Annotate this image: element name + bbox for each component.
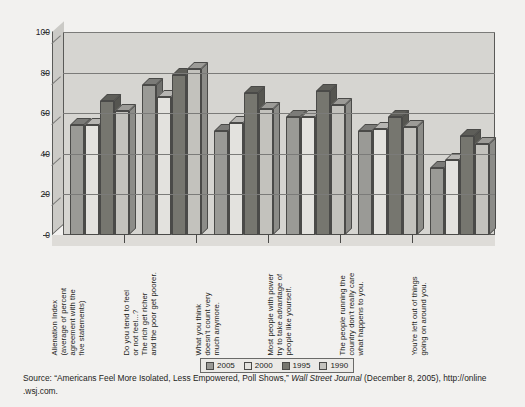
legend-swatch bbox=[244, 362, 252, 370]
legend-label: 2005 bbox=[217, 362, 235, 370]
bar bbox=[157, 97, 171, 235]
chart-page: 020406080100 Alienation Index(average of… bbox=[0, 0, 525, 407]
category-label-group: The people running thecountry don't real… bbox=[347, 248, 406, 356]
x-axis-separator bbox=[340, 234, 341, 243]
gridline bbox=[63, 32, 495, 33]
bar bbox=[214, 131, 228, 235]
bar bbox=[100, 101, 114, 235]
bar bbox=[475, 144, 489, 235]
bar bbox=[115, 111, 129, 235]
x-axis-separator bbox=[124, 234, 125, 243]
category-label-group: Alienation Index(average of percentagree… bbox=[59, 248, 118, 356]
bar-front-face bbox=[373, 129, 387, 235]
category-label-line: The rich get richer bbox=[141, 293, 149, 356]
category-label-line: going on around you. bbox=[420, 283, 428, 356]
bar-front-face bbox=[142, 85, 156, 235]
source-publication: Wall Street Journal bbox=[291, 373, 362, 383]
legend-label: 1995 bbox=[293, 362, 311, 370]
legend-swatch bbox=[206, 362, 214, 370]
category-label-line: Most people with power bbox=[267, 274, 275, 356]
bar bbox=[388, 117, 402, 235]
category-label-line: (average of percent bbox=[60, 288, 68, 356]
bar-front-face bbox=[85, 125, 99, 235]
bar-side-face bbox=[273, 102, 280, 235]
gridline bbox=[63, 154, 495, 155]
bar bbox=[445, 160, 459, 235]
x-axis-separator bbox=[268, 234, 269, 243]
bar-front-face bbox=[100, 101, 114, 235]
bar bbox=[358, 131, 372, 235]
y-axis-tick-mark bbox=[43, 194, 49, 195]
bar-front-face bbox=[388, 117, 402, 235]
category-label-line: You're left out of things bbox=[411, 277, 419, 356]
bar-front-face bbox=[172, 75, 186, 235]
y-axis-tick-mark bbox=[43, 235, 49, 236]
bar bbox=[229, 123, 243, 235]
bar-front-face bbox=[244, 93, 258, 235]
gridline bbox=[63, 73, 495, 74]
category-label-line: What you think bbox=[195, 304, 203, 356]
bar bbox=[70, 125, 84, 235]
bar-front-face bbox=[157, 97, 171, 235]
category-label-line: doesn't count very bbox=[204, 293, 212, 356]
gridline bbox=[63, 113, 495, 114]
legend-item: 1990 bbox=[319, 362, 348, 370]
bar bbox=[373, 129, 387, 235]
x-axis-category-labels: Alienation Index(average of percentagree… bbox=[52, 248, 495, 356]
y-axis-tick-mark bbox=[43, 73, 49, 74]
bar-front-face bbox=[430, 168, 444, 235]
y-axis: 020406080100 bbox=[14, 10, 50, 250]
category-label-group: Do you tend to feelor not feel...?The ri… bbox=[131, 248, 190, 356]
bar-series-container bbox=[52, 32, 495, 246]
chart-legend: 2005200019951990 bbox=[200, 358, 354, 373]
legend-item: 1995 bbox=[282, 362, 311, 370]
bar bbox=[301, 117, 315, 235]
bar-front-face bbox=[286, 117, 300, 235]
bar-front-face bbox=[301, 117, 315, 235]
bar bbox=[172, 75, 186, 235]
bar bbox=[460, 136, 474, 235]
bar bbox=[244, 93, 258, 235]
category-label-line: Alienation Index bbox=[51, 300, 59, 356]
category-label-line: Do you tend to feel bbox=[123, 290, 131, 356]
legend-item: 2000 bbox=[244, 362, 273, 370]
bar bbox=[331, 105, 345, 235]
category-label-line: much anymore. bbox=[213, 302, 221, 356]
category-label-line: try to take advantage of bbox=[276, 274, 284, 356]
bar-front-face bbox=[331, 105, 345, 235]
category-label-line: what happens to you. bbox=[357, 282, 365, 356]
bar-side-face bbox=[201, 62, 208, 235]
category-label-line: The people running the bbox=[339, 276, 347, 356]
bar-front-face bbox=[259, 109, 273, 235]
chart-figure: 020406080100 Alienation Index(average of… bbox=[14, 10, 511, 358]
bar-side-face bbox=[417, 121, 424, 235]
bar-front-face bbox=[115, 111, 129, 235]
bar-side-face bbox=[345, 98, 352, 235]
legend-swatch bbox=[282, 362, 290, 370]
category-label-group: What you thinkdoesn't count verymuch any… bbox=[203, 248, 262, 356]
legend-item: 2005 bbox=[206, 362, 235, 370]
y-axis-tick-mark bbox=[43, 113, 49, 114]
category-label-line: five statements) bbox=[79, 301, 87, 356]
gridline bbox=[63, 194, 495, 195]
bar bbox=[286, 117, 300, 235]
bar-front-face bbox=[214, 131, 228, 235]
category-label-line: agreement with the bbox=[69, 290, 77, 356]
bar-front-face bbox=[445, 160, 459, 235]
bar-front-face bbox=[475, 144, 489, 235]
legend-label: 2000 bbox=[255, 362, 273, 370]
bar-side-face bbox=[489, 137, 496, 235]
category-label-group: You're left out of thingsgoing on around… bbox=[419, 248, 478, 356]
bar bbox=[85, 125, 99, 235]
bar bbox=[142, 85, 156, 235]
y-axis-tick-mark bbox=[43, 154, 49, 155]
category-label-line: country don't really care bbox=[348, 273, 356, 356]
category-label-line: or not feel...? bbox=[132, 310, 140, 356]
bar-front-face bbox=[229, 123, 243, 235]
x-axis-separator bbox=[412, 234, 413, 243]
bar bbox=[187, 69, 201, 235]
category-label-group: Most people with powertry to take advant… bbox=[275, 248, 334, 356]
category-label-line: people like yourself. bbox=[285, 287, 293, 356]
source-note: Source: “Americans Feel More Isolated, L… bbox=[23, 372, 503, 397]
bar-front-face bbox=[403, 127, 417, 235]
